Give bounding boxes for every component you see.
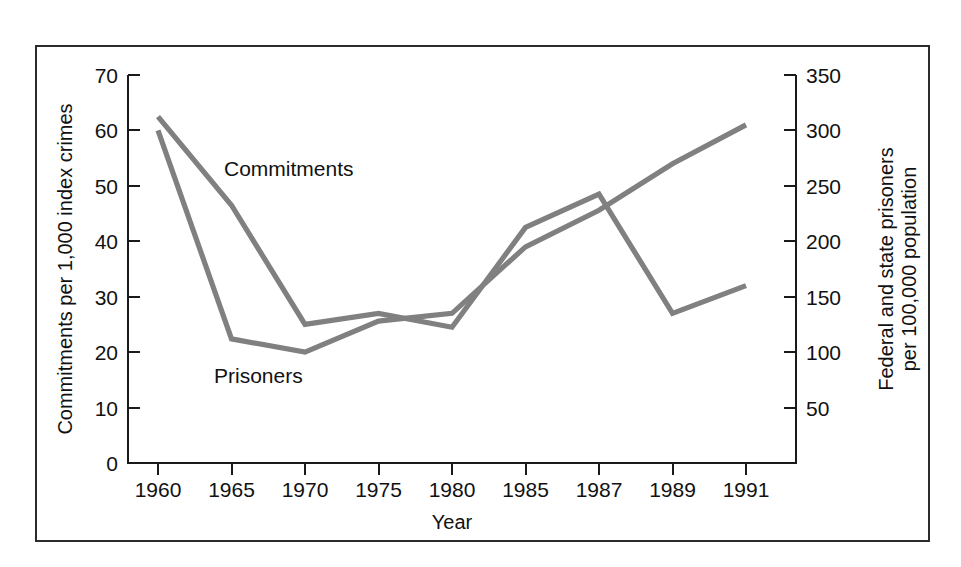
x-tick-label-1960: 1960 [135,478,182,501]
right-axis-title-line1: Federal and state prisoners [875,147,897,390]
right-tick-label-200: 200 [806,230,841,253]
x-tick-label-1975: 1975 [355,478,402,501]
left-tick-label-70: 70 [95,64,118,87]
line-chart: 70 60 50 40 30 20 10 0 350 300 250 200 1… [0,0,961,567]
right-tick-label-150: 150 [806,286,841,309]
left-tick-label-30: 30 [95,286,118,309]
x-tick-label-1965: 1965 [208,478,255,501]
x-axis-tick-labels: 1960 1965 1970 1975 1980 1985 1987 1989 … [135,478,770,501]
series-label-commitments: Commitments [224,157,354,180]
right-tick-label-250: 250 [806,175,841,198]
left-tick-label-0: 0 [106,452,118,475]
left-tick-label-20: 20 [95,341,118,364]
right-axis-title-line2: per 100,000 population [898,167,920,372]
x-tick-label-1991: 1991 [723,478,770,501]
left-axis-title: Commitments per 1,000 index crimes [54,103,76,434]
left-tick-label-40: 40 [95,230,118,253]
figure-root: 70 60 50 40 30 20 10 0 350 300 250 200 1… [0,0,961,567]
x-tick-label-1980: 1980 [429,478,476,501]
right-tick-label-350: 350 [806,64,841,87]
x-tick-label-1970: 1970 [282,478,329,501]
x-axis-title: Year [432,511,473,533]
right-tick-label-300: 300 [806,119,841,142]
left-tick-label-60: 60 [95,119,118,142]
left-tick-label-10: 10 [95,397,118,420]
left-tick-label-50: 50 [95,175,118,198]
x-tick-label-1985: 1985 [502,478,549,501]
right-tick-label-50: 50 [806,397,829,420]
x-tick-label-1989: 1989 [649,478,696,501]
series-label-prisoners: Prisoners [214,364,303,387]
right-tick-label-100: 100 [806,341,841,364]
x-tick-label-1987: 1987 [576,478,623,501]
